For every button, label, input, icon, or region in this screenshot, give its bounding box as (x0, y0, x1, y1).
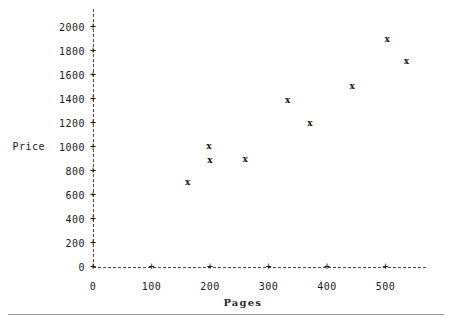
y-tick-label: 2000 (59, 22, 85, 33)
x-tick-mark: + (382, 262, 388, 272)
x-tick-label: 200 (200, 281, 220, 292)
y-tick-mark: + (90, 166, 96, 176)
y-tick-mark: + (90, 94, 96, 104)
data-point: x (207, 155, 212, 164)
x-tick-mark: + (265, 262, 271, 272)
x-tick-label: 500 (376, 281, 396, 292)
y-tick-mark: + (90, 190, 96, 200)
y-tick-mark: + (90, 262, 96, 272)
y-tick-label: 800 (65, 166, 85, 177)
y-tick-label: 400 (65, 214, 85, 225)
y-tick-label: 200 (65, 238, 85, 249)
data-point: x (385, 35, 390, 44)
y-tick-label: 0 (78, 262, 85, 273)
x-axis-title: Pages (223, 297, 262, 308)
data-point: x (242, 155, 247, 164)
x-tick-mark: + (324, 262, 330, 272)
x-tick-label: 300 (259, 281, 279, 292)
data-point: x (285, 95, 290, 104)
x-tick-label: 400 (317, 281, 337, 292)
data-point: x (307, 119, 312, 128)
data-point: x (185, 178, 190, 187)
y-tick-label: 1800 (59, 46, 85, 57)
data-point: x (349, 82, 354, 91)
y-tick-mark: + (90, 118, 96, 128)
y-tick-mark: + (90, 70, 96, 80)
y-tick-label: 1200 (59, 118, 85, 129)
x-axis-line (93, 267, 426, 268)
data-point: x (404, 56, 409, 65)
y-tick-label: 600 (65, 190, 85, 201)
x-tick-label: 0 (90, 281, 97, 292)
y-tick-mark: + (90, 22, 96, 32)
x-tick-label: 100 (142, 281, 162, 292)
y-tick-mark: + (90, 46, 96, 56)
y-tick-mark: + (90, 238, 96, 248)
y-axis-title: Price (12, 141, 45, 152)
y-tick-mark: + (90, 214, 96, 224)
x-tick-mark: + (207, 262, 213, 272)
y-tick-mark: + (90, 142, 96, 152)
data-point: x (206, 142, 211, 151)
y-tick-label: 1400 (59, 94, 85, 105)
scatter-plot: +0+200+400+600+800+1000+1200+1400+1600+1… (0, 0, 452, 326)
y-tick-label: 1600 (59, 70, 85, 81)
x-tick-mark: + (148, 262, 154, 272)
bottom-divider (8, 314, 444, 315)
y-tick-label: 1000 (59, 142, 85, 153)
